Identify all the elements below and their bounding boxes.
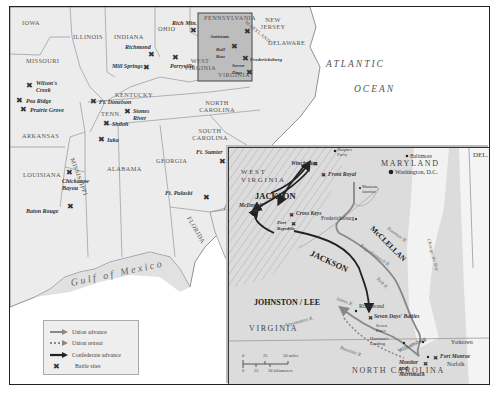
battle-label-prairie-grove: Prairie Grove (30, 107, 64, 114)
confederate-advance-arrow-icon (50, 351, 72, 359)
state-label-new-jersey: NEW JERSEY (260, 16, 286, 30)
battle-site-icon: ✖ (143, 64, 150, 72)
battle-label-mill-springs: Mill Springs (112, 63, 143, 70)
battle-label-bull-run: Bull Run (216, 47, 232, 60)
inset-map-virginia: WEST VIRGINIA MARYLAND DEL. VIRGINIA NOR… (228, 147, 490, 385)
state-label-georgia: GEORGIA (156, 157, 187, 164)
battle-site-icon: ✖ (321, 171, 326, 179)
battle-label-perryville: Perryville (170, 63, 194, 70)
city-label-baltimore: Baltimore (410, 153, 432, 159)
state-label-south-carolina: SOUTH CAROLINA (190, 127, 230, 141)
battle-site-icon: ✖ (103, 120, 110, 128)
state-label-arkansas: ARKANSAS (22, 132, 59, 139)
battle-label-front-royal: Front Royal (328, 171, 356, 177)
inset-label-west-virginia: WEST VIRGINIA (241, 168, 281, 184)
battle-site-icon: ✖ (90, 98, 97, 106)
map-legend: Union advance Union retreat Confederate … (43, 320, 139, 375)
scale-miles-0: 0 (242, 353, 244, 358)
state-label-louisiana: LOUISIANA (23, 171, 61, 178)
atlantic-label: ATLANTIC (326, 59, 385, 69)
battle-label-stones-river: Stones River (133, 108, 153, 121)
battle-label-mcdowell: McDowell (239, 202, 263, 208)
state-label-delaware: DELAWARE (268, 39, 305, 46)
battle-site-icon: ✖ (231, 43, 238, 51)
battle-site-icon: ✖ (26, 82, 33, 90)
city-label-harpers-ferry: Harpers Ferry (337, 147, 355, 157)
legend-item-union-advance: Union advance (50, 326, 132, 338)
city-label-richmond: Richmond (359, 303, 384, 309)
battle-site-icon: ✖ (203, 194, 210, 202)
battle-site-icon: ✖ (219, 158, 226, 166)
city-label-harrisons-landing: Harrison's Landing (370, 336, 392, 346)
battle-label-fredericksburg: Fredericksburg (250, 57, 282, 64)
battle-site-icon: ✖ (242, 55, 249, 63)
battle-site-icon: ✖ (67, 203, 74, 211)
battle-site-icon: ✖ (172, 54, 179, 62)
battle-label-ft-donelson: Ft. Donelson (99, 99, 131, 106)
battle-label-cross-keys: Cross Keys (296, 210, 321, 216)
state-label-alabama: ALABAMA (107, 165, 142, 172)
battle-site-icon: ✖ (50, 362, 75, 370)
battle-label-seven-days: Seven Days (232, 63, 248, 76)
state-label-missouri: MISSOURI (26, 57, 59, 64)
city-label-seven-pines: Seven Pines (376, 323, 390, 333)
scale-km-25: 25 (254, 368, 259, 373)
city-label-manassas: Manassas Junction (362, 184, 386, 194)
battle-site-icon: ✖ (433, 354, 438, 362)
battle-label-pea-ridge: Pea Ridge (26, 98, 51, 105)
battle-label-ft-pulaski: Ft. Pulaski (165, 190, 192, 197)
battle-label-seven-days-battles: Seven Days' Battles (374, 313, 419, 319)
battle-site-icon: ✖ (190, 27, 197, 35)
battle-label-winchester: Winchester (291, 160, 317, 166)
union-retreat-arrow-icon (50, 339, 72, 347)
state-label-kentucky: KENTUCKY (115, 91, 153, 98)
state-label-tenn: TENN. (101, 110, 121, 117)
legend-item-confederate-advance: Confederate advance (50, 349, 132, 361)
battle-site-icon: ✖ (66, 169, 73, 177)
battle-site-icon: ✖ (289, 211, 294, 219)
battle-label-chickasaw-bayou: Chickasaw Bayou (62, 178, 90, 191)
battle-label-baton-rouge: Baton Rouge (26, 208, 59, 215)
scale-km-50: 50 kilometers (268, 368, 293, 373)
scale-km-0: 0 (242, 368, 244, 373)
city-label-fredericksburg: Fredericksburg (321, 215, 354, 221)
battle-site-icon: ✖ (368, 314, 373, 322)
battle-label-fort-monroe: Fort Monroe (440, 353, 470, 359)
battle-site-icon: ✖ (124, 108, 131, 116)
legend-item-union-retreat: Union retreat (50, 338, 132, 350)
battle-site-icon: ✖ (20, 106, 27, 114)
army-label-jackson-1: JACKSON (255, 191, 296, 201)
battle-label-antietam: Antietam (210, 34, 229, 41)
battle-label-ft-sumter: Ft. Sumter (196, 149, 223, 156)
battle-label-wilsons-creek: Wilson's Creek (36, 80, 60, 93)
battle-label-richmond-ky: Richmond (125, 44, 151, 51)
inset-label-del: DEL. (473, 151, 488, 159)
city-label-yorktown: Yorktown (451, 339, 473, 345)
state-label-north-carolina: NORTH CAROLINA (197, 99, 237, 113)
state-label-illinois: ILLINOIS (73, 33, 103, 40)
army-label-johnston-lee: JOHNSTON / LEE (254, 298, 320, 307)
ocean-label: OCEAN (354, 84, 395, 94)
state-label-indiana: INDIANA (114, 33, 144, 40)
battle-site-icon: ✖ (253, 207, 258, 215)
battle-label-port-republic: Port Republic (277, 220, 295, 232)
battle-site-icon: ✖ (16, 97, 23, 105)
state-label-iowa: IOWA (22, 19, 40, 26)
battle-label-rich-mtn: Rich Mtn. (172, 20, 197, 27)
map-frame: IOWA ILLINOIS INDIANA OHIO PENNSYLVANIA … (9, 6, 490, 385)
inset-label-maryland: MARYLAND (381, 159, 440, 168)
battle-site-icon: ✖ (244, 28, 251, 36)
battle-label-iuka: Iuka (107, 137, 119, 144)
battle-site-icon: ✖ (98, 136, 105, 144)
battle-label-monitor-merrimack: Monitor and Merrimack (399, 359, 425, 377)
union-advance-arrow-icon (50, 328, 72, 336)
scale-miles-50: 50 miles (283, 353, 298, 358)
scale-miles-25: 25 (263, 353, 268, 358)
legend-item-battle-sites: ✖ Battle sites (50, 361, 132, 373)
city-label-washington: Washington, D.C. (395, 169, 438, 175)
city-label-norfolk: Norfolk (447, 361, 464, 367)
battle-label-shiloh: Shiloh (112, 121, 128, 128)
battle-site-icon: ✖ (148, 51, 155, 59)
